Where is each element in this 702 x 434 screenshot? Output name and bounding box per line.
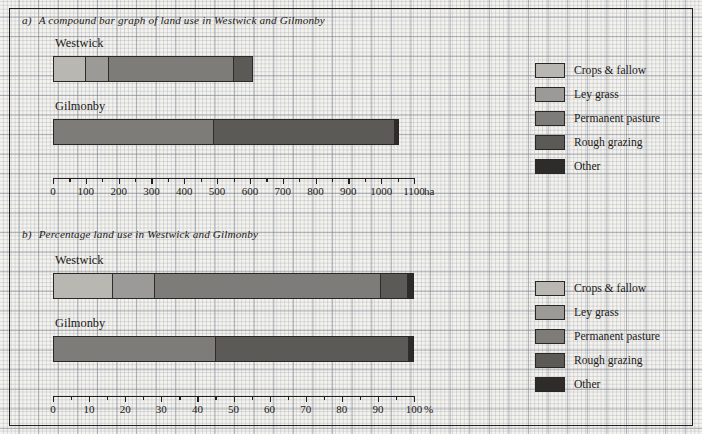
bar-segment-rough-grazing: [214, 120, 395, 144]
axis-tick-major: [348, 178, 349, 184]
legend-item: Other: [535, 154, 660, 178]
legend-swatch-ley-grass: [535, 305, 565, 320]
axis-tick-minor: [168, 178, 169, 182]
legend-label: Ley grass: [574, 306, 619, 319]
axis-tick-major: [119, 178, 120, 184]
bar-segment-permanent-pasture: [109, 57, 234, 81]
bar-label-gilmonby-a: Gilmonby: [55, 99, 105, 114]
legend-item: Ley grass: [535, 300, 660, 324]
graph-paper-page: a)A compound bar graph of land use in We…: [0, 0, 702, 434]
axis-tick-major: [89, 396, 90, 402]
panel-a-marker: a): [22, 14, 32, 26]
axis-tick-label: 50: [228, 403, 239, 415]
legend-a: Crops & fallowLey grassPermanent pasture…: [535, 58, 660, 178]
axis-tick-label: 1000: [370, 185, 392, 197]
axis-tick-major: [414, 178, 415, 184]
axis-tick-major: [316, 178, 317, 184]
axis-tick-major: [250, 178, 251, 184]
bar-segment-other: [409, 337, 413, 361]
axis-tick-label: 300: [143, 185, 160, 197]
axis-tick-major: [161, 396, 162, 402]
bar-segment-permanent-pasture: [54, 337, 216, 361]
legend-item: Crops & fallow: [535, 276, 660, 300]
axis-tick-minor: [135, 178, 136, 182]
axis-tick-minor: [102, 178, 103, 182]
legend-item: Permanent pasture: [535, 106, 660, 130]
legend-label: Ley grass: [574, 88, 619, 101]
axis-tick-minor: [288, 396, 289, 400]
bar-segment-permanent-pasture: [155, 274, 381, 298]
legend-b: Crops & fallowLey grassPermanent pasture…: [535, 276, 660, 396]
axis-tick-major: [53, 178, 54, 184]
bar-westwick-percent: [53, 273, 414, 299]
legend-item: Other: [535, 372, 660, 396]
axis-tick-minor: [71, 396, 72, 400]
axis-tick-label: 400: [176, 185, 193, 197]
axis-tick-major: [151, 178, 152, 184]
axis-tick-major: [283, 178, 284, 184]
legend-item: Permanent pasture: [535, 324, 660, 348]
axis-tick-label: 20: [120, 403, 131, 415]
axis-tick-label: 700: [274, 185, 291, 197]
axis-tick-label: 0: [50, 185, 56, 197]
axis-tick-minor: [396, 396, 397, 400]
axis-tick-minor: [252, 396, 253, 400]
axis-tick-minor: [360, 396, 361, 400]
bar-segment-rough-grazing: [381, 274, 408, 298]
axis-tick-major: [414, 396, 415, 402]
legend-label: Permanent pasture: [574, 112, 660, 125]
axis-tick-label: 1100: [403, 185, 425, 197]
axis-tick-major: [217, 178, 218, 184]
axis-tick-minor: [215, 396, 216, 400]
legend-item: Rough grazing: [535, 348, 660, 372]
axis-tick-major: [342, 396, 343, 402]
axis-tick-minor: [107, 396, 108, 400]
panel-a-title-text: A compound bar graph of land use in West…: [39, 14, 325, 26]
legend-label: Crops & fallow: [574, 282, 646, 295]
bar-segment-ley-grass: [86, 57, 109, 81]
axis-tick-major: [53, 396, 54, 402]
legend-swatch-crops-fallow: [535, 63, 565, 78]
axis-tick-minor: [201, 178, 202, 182]
bar-label-westwick-a: Westwick: [55, 36, 104, 51]
legend-label: Other: [574, 160, 600, 173]
legend-label: Crops & fallow: [574, 64, 646, 77]
axis-tick-minor: [234, 178, 235, 182]
bar-label-gilmonby-b: Gilmonby: [55, 316, 105, 331]
axis-tick-major: [378, 396, 379, 402]
legend-item: Rough grazing: [535, 130, 660, 154]
panel-b-title-text: Percentage land use in Westwick and Gilm…: [39, 228, 259, 240]
axis-tick-major: [381, 178, 382, 184]
axis-tick-minor: [266, 178, 267, 182]
panel-b-title: b)Percentage land use in Westwick and Gi…: [22, 228, 258, 240]
bar-segment-rough-grazing: [234, 57, 252, 81]
legend-swatch-permanent-pasture: [535, 329, 565, 344]
axis-tick-label: 600: [242, 185, 259, 197]
axis-tick-label: 900: [340, 185, 357, 197]
bar-label-westwick-b: Westwick: [55, 253, 104, 268]
axis-tick-label: 60: [264, 403, 275, 415]
axis-tick-minor: [332, 178, 333, 182]
axis-tick-minor: [143, 396, 144, 400]
axis-tick-label: 30: [156, 403, 167, 415]
x-axis-unit-percent: %: [424, 403, 433, 415]
axis-tick-label: 90: [372, 403, 383, 415]
panel-a-title: a)A compound bar graph of land use in We…: [22, 14, 325, 26]
axis-tick-minor: [324, 396, 325, 400]
axis-tick-major: [270, 396, 271, 402]
axis-tick-minor: [179, 396, 180, 400]
legend-label: Permanent pasture: [574, 330, 660, 343]
legend-swatch-other: [535, 377, 565, 392]
axis-tick-major: [184, 178, 185, 184]
axis-tick-minor: [69, 178, 70, 182]
legend-swatch-rough-grazing: [535, 353, 565, 368]
legend-label: Rough grazing: [574, 354, 643, 367]
legend-swatch-other: [535, 159, 565, 174]
bar-gilmonby-ha: [53, 119, 399, 145]
axis-tick-major: [234, 396, 235, 402]
bar-segment-other: [395, 120, 398, 144]
axis-tick-label: 200: [110, 185, 127, 197]
axis-tick-major: [306, 396, 307, 402]
axis-tick-minor: [398, 178, 399, 182]
legend-swatch-ley-grass: [535, 87, 565, 102]
